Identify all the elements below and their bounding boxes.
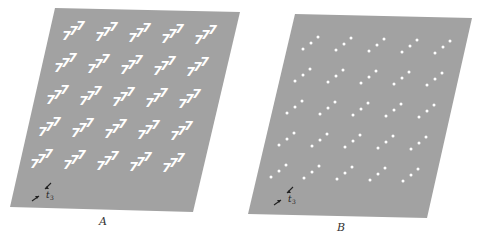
seven-glyph: 7 <box>93 83 103 98</box>
lattice-dot <box>278 170 281 173</box>
lattice-dot <box>433 104 436 107</box>
panel-a-lattice: 7777777777777777777777777777777777777777… <box>10 8 240 212</box>
lattice-dot <box>303 177 306 180</box>
lattice-dot <box>449 40 452 43</box>
lattice-dot <box>441 72 444 75</box>
seven-glyph: 7 <box>101 51 111 66</box>
seven-glyph: 7 <box>44 146 54 161</box>
lattice-dot <box>327 107 330 110</box>
seven-glyph: 7 <box>192 86 202 101</box>
lattice-dot <box>278 144 281 147</box>
seven-glyph: 7 <box>77 147 87 162</box>
lattice-dot <box>334 101 337 104</box>
seven-glyph: 7 <box>76 18 86 33</box>
lattice-dot <box>311 145 314 148</box>
lattice-dot <box>375 70 378 73</box>
lattice-figure: 7777777777777777777777777777777777777777… <box>0 0 484 244</box>
lattice-dot <box>318 165 321 168</box>
lattice-dot <box>309 68 312 71</box>
seven-glyph: 7 <box>60 82 70 97</box>
lattice-dot <box>442 46 445 49</box>
lattice-dot <box>401 51 404 54</box>
lattice-dot <box>335 75 338 78</box>
lattice-dot <box>319 113 322 116</box>
lattice-dot <box>400 103 403 106</box>
lattice-dot <box>352 114 355 117</box>
lattice-dot <box>410 174 413 177</box>
lattice-dot <box>402 180 405 183</box>
lattice-dot <box>344 172 347 175</box>
svg-text:3: 3 <box>50 194 54 201</box>
lattice-dot <box>351 166 354 169</box>
seven-glyph: 7 <box>109 19 119 34</box>
lattice-dot <box>352 140 355 143</box>
seven-glyph: 7 <box>68 50 78 65</box>
seven-glyph: 7 <box>134 52 144 67</box>
lattice-dot <box>385 141 388 144</box>
lattice-dot <box>327 81 330 84</box>
panel-b-label: B <box>337 221 345 234</box>
lattice-dot <box>368 76 371 79</box>
seven-glyph: 7 <box>151 117 161 132</box>
lattice-dot <box>294 80 297 83</box>
panel-a-label: A <box>99 215 107 228</box>
lattice-dot <box>425 136 428 139</box>
seven-glyph: 7 <box>52 114 62 129</box>
lattice-dot <box>369 179 372 182</box>
seven-glyph: 7 <box>159 85 169 100</box>
seven-glyph: 7 <box>118 116 128 131</box>
seven-glyph: 7 <box>85 115 95 130</box>
lattice-dot <box>317 36 320 39</box>
lattice-dot <box>393 83 396 86</box>
seven-glyph: 7 <box>110 148 120 163</box>
lattice-dot <box>377 173 380 176</box>
lattice-dot <box>286 112 289 115</box>
seven-glyph: 7 <box>167 53 177 68</box>
lattice-dot <box>342 69 345 72</box>
panel-b-lattice: t3 <box>248 14 472 218</box>
lattice-dot <box>434 52 437 55</box>
lattice-dot <box>393 109 396 112</box>
lattice-dot <box>302 74 305 77</box>
lattice-dot <box>344 146 347 149</box>
lattice-dot <box>367 102 370 105</box>
seven-glyph: 7 <box>184 118 194 133</box>
lattice-dot <box>384 167 387 170</box>
seven-glyph: 7 <box>143 149 153 164</box>
lattice-dot <box>359 134 362 137</box>
lattice-dot <box>302 48 305 51</box>
lattice-dot <box>426 84 429 87</box>
lattice-dot <box>409 45 412 48</box>
lattice-dot <box>385 115 388 118</box>
lattice-dot <box>383 38 386 41</box>
lattice-dot <box>319 139 322 142</box>
lattice-dot <box>392 135 395 138</box>
lattice-dot <box>311 171 314 174</box>
seven-glyph: 7 <box>176 150 186 165</box>
lattice-dot <box>343 43 346 46</box>
lattice-dot <box>418 116 421 119</box>
lattice-dot <box>408 71 411 74</box>
lattice-dot <box>434 78 437 81</box>
lattice-dot <box>350 37 353 40</box>
lattice-dot <box>426 110 429 113</box>
lattice-dot <box>401 77 404 80</box>
lattice-dot <box>360 108 363 111</box>
lattice-dot <box>270 176 273 179</box>
lattice-dot <box>377 147 380 150</box>
lattice-dot <box>286 138 289 141</box>
lattice-dot <box>285 164 288 167</box>
seven-glyph: 7 <box>126 84 136 99</box>
lattice-dot <box>326 133 329 136</box>
lattice-dot <box>335 49 338 52</box>
seven-glyph: 7 <box>208 22 218 37</box>
lattice-dot <box>376 44 379 47</box>
lattice-dot <box>301 100 304 103</box>
seven-glyph: 7 <box>142 20 152 35</box>
lattice-dot <box>417 168 420 171</box>
lattice-dot <box>368 50 371 53</box>
seven-glyph: 7 <box>200 54 210 69</box>
lattice-dot <box>410 148 413 151</box>
lattice-dot <box>418 142 421 145</box>
lattice-dot <box>416 39 419 42</box>
